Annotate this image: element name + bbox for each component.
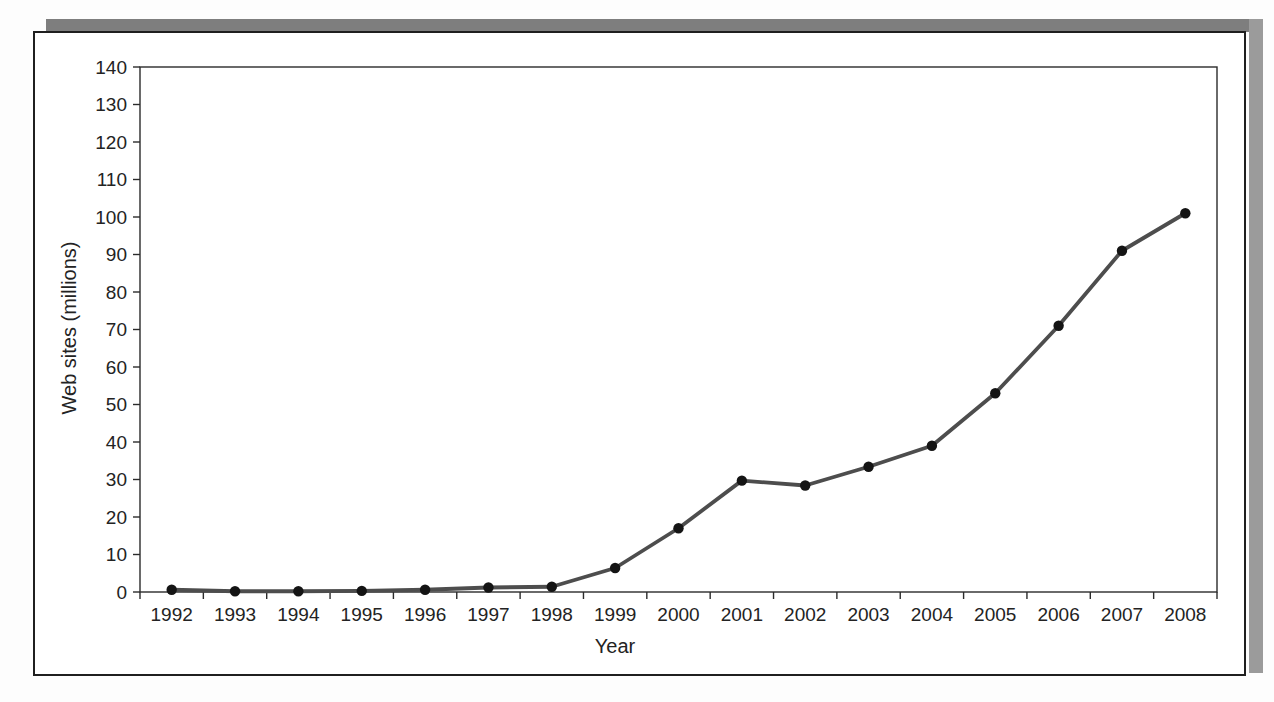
x-axis-tick-label: 1998 [531,604,573,625]
data-point [1117,246,1127,256]
data-point [166,585,176,595]
y-axis-title: Web sites (millions) [58,242,80,415]
x-axis-tick-label: 1996 [404,604,446,625]
y-axis-tick-label: 10 [106,544,127,565]
data-point [610,563,620,573]
y-axis-tick-label: 20 [106,507,127,528]
series-line [172,213,1186,591]
y-axis-tick-label: 30 [106,469,127,490]
x-axis-tick-label: 1999 [594,604,636,625]
x-axis-tick-label: 2005 [974,604,1016,625]
data-point [863,462,873,472]
x-axis-tick-label: 1992 [151,604,193,625]
x-axis-title: Year [595,635,636,657]
line-chart: 0102030405060708090100110120130140199219… [35,33,1244,674]
x-axis-tick-label: 1994 [277,604,320,625]
data-point [673,523,683,533]
data-point [293,586,303,596]
x-axis-tick-label: 2003 [847,604,889,625]
data-point [1180,208,1190,218]
data-point [737,475,747,485]
x-axis-tick-label: 2002 [784,604,826,625]
x-axis-tick-label: 2004 [911,604,954,625]
x-axis-tick-label: 1995 [341,604,383,625]
x-axis-tick-label: 2007 [1101,604,1143,625]
data-point [800,480,810,490]
x-axis-tick-label: 2001 [721,604,763,625]
figure-shadow-right [1249,19,1263,673]
y-axis-tick-label: 70 [106,319,127,340]
y-axis-tick-label: 110 [97,169,127,190]
data-point [990,388,1000,398]
data-point [357,586,367,596]
y-axis-tick-label: 130 [95,94,127,115]
x-axis-tick-label: 1997 [467,604,509,625]
scanned-page: 0102030405060708090100110120130140199219… [0,0,1274,702]
y-axis-tick-label: 90 [106,244,127,265]
x-axis-tick-label: 1993 [214,604,256,625]
y-axis-tick-label: 60 [106,357,127,378]
x-axis-tick-label: 2000 [657,604,699,625]
data-point [1053,321,1063,331]
y-axis-tick-label: 50 [106,394,127,415]
y-axis-tick-label: 0 [116,582,127,603]
data-point [483,582,493,592]
data-point [420,585,430,595]
figure-box: 0102030405060708090100110120130140199219… [33,31,1246,676]
data-point [547,582,557,592]
chart-plot-area: 0102030405060708090100110120130140199219… [95,57,1217,626]
y-axis-tick-label: 100 [95,207,127,228]
y-axis-tick-label: 40 [106,432,127,453]
data-point [230,586,240,596]
x-axis-tick-label: 2006 [1037,604,1079,625]
data-point [927,441,937,451]
x-axis-tick-label: 2008 [1164,604,1206,625]
y-axis-tick-label: 140 [95,57,127,78]
y-axis-tick-label: 120 [95,132,127,153]
y-axis-tick-label: 80 [106,282,127,303]
